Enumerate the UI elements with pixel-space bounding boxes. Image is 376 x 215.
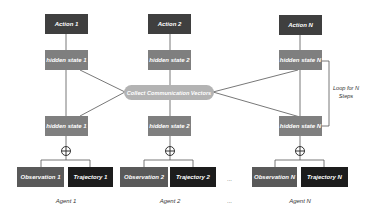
agent-2-label: Agent 2 [150,198,190,204]
trajectory-1-node: Trajectory 1 [68,167,113,187]
hidden-state-n-bottom-node: hidden state N [279,116,322,136]
collect-communication-vectors-node: Collect Communication Vectors [124,85,214,100]
loop-label: Loop for N Steps [330,84,362,100]
ellipsis-agents: ... [227,198,232,204]
hidden-state-2-top-node: hidden state 2 [148,50,191,70]
concat-plus-icon [165,146,175,156]
ellipsis-observations: ... [227,176,232,182]
observation-2-node: Observation 2 [120,167,168,187]
action-n-node: Action N [279,15,322,35]
hidden-state-1-bottom-node: hidden state 1 [45,116,88,136]
hidden-state-1-top-node: hidden state 1 [45,50,88,70]
concat-plus-icon [61,146,71,156]
concat-plus-icon [295,146,305,156]
observation-n-node: Observation N [252,167,297,187]
action-2-node: Action 2 [148,14,191,34]
trajectory-2-node: Trajectory 2 [170,167,216,187]
hidden-state-n-top-node: hidden state N [279,50,322,70]
action-1-node: Action 1 [45,14,88,34]
observation-1-node: Observation 1 [17,167,64,187]
agent-n-label: Agent N [280,198,320,204]
hidden-state-2-bottom-node: hidden state 2 [148,116,191,136]
trajectory-n-node: Trajectory N [301,167,348,187]
agent-1-label: Agent 1 [46,198,86,204]
